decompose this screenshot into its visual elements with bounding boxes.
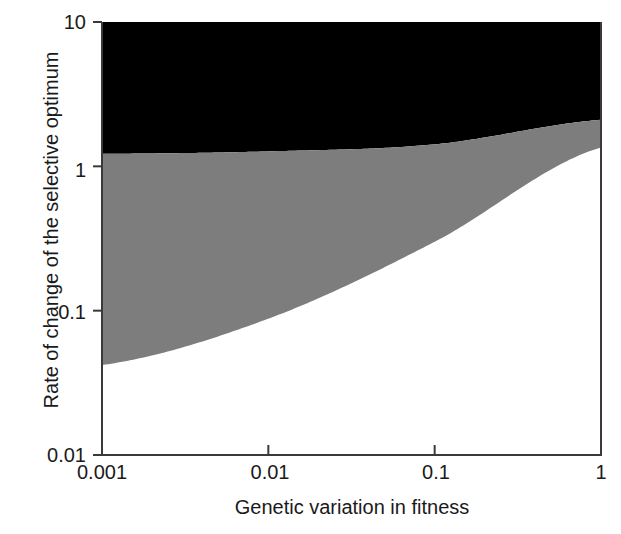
plot-area [0, 0, 621, 534]
chart-figure: Rate of change of the selective optimum … [0, 0, 621, 534]
